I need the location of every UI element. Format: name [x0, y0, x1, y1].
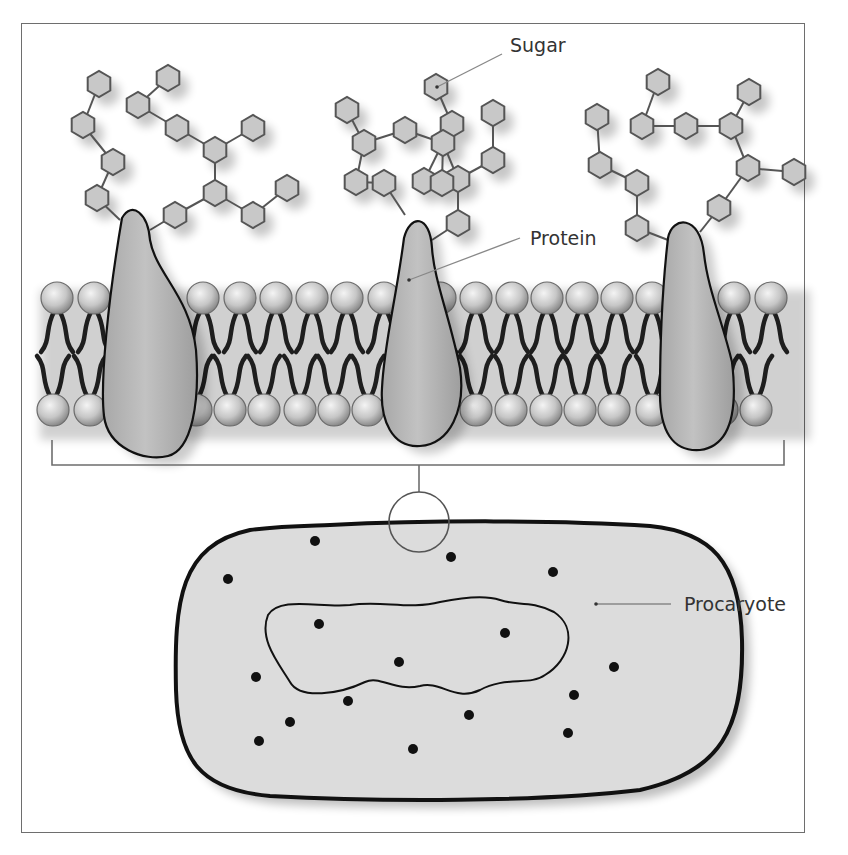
ribosome-dot: [569, 690, 579, 700]
phospholipid-head: [74, 394, 106, 426]
ribosome-dot: [446, 552, 456, 562]
phospholipid-head: [331, 282, 363, 314]
phospholipid-head: [296, 282, 328, 314]
sugar-hexagon: [675, 113, 698, 139]
sugar-hexagon: [72, 112, 95, 138]
sugar-hexagon: [631, 113, 654, 139]
phospholipid-head: [530, 394, 562, 426]
protein-middle: [382, 221, 461, 446]
sugar-hexagon: [738, 79, 761, 105]
phospholipid-head: [495, 394, 527, 426]
label-procaryote: Procaryote: [684, 593, 786, 615]
ribosome-dot: [500, 628, 510, 638]
sugar-hexagon: [86, 185, 109, 211]
sugar-hexagon: [353, 130, 376, 156]
label-sugar: Sugar: [510, 34, 566, 56]
protein-right: [660, 222, 734, 450]
ribosome-dot: [563, 728, 573, 738]
phospholipid-head: [37, 394, 69, 426]
cell-wall: [176, 521, 742, 800]
phospholipid-head: [601, 282, 633, 314]
sugar-hexagon: [586, 104, 609, 130]
sugar-hexagon: [102, 149, 125, 175]
ribosome-dot: [609, 662, 619, 672]
ribosome-dot: [314, 619, 324, 629]
label-protein: Protein: [530, 227, 597, 249]
procaryote-cell: [176, 521, 750, 808]
phospholipid-head: [248, 394, 280, 426]
sugar-hexagon: [783, 159, 806, 185]
ribosome-dot: [408, 744, 418, 754]
sugar-hexagon: [431, 170, 454, 196]
sugar-hexagon: [394, 117, 417, 143]
sugar-hexagon: [720, 113, 743, 139]
phospholipid-head: [41, 282, 73, 314]
sugar-hexagon: [447, 210, 470, 236]
sugar-hexagon: [164, 202, 187, 228]
phospholipid-head: [214, 394, 246, 426]
phospholipid-head: [755, 282, 787, 314]
protein-left: [103, 210, 197, 457]
ribosome-dot: [464, 710, 474, 720]
sugar-hexagon: [166, 115, 189, 141]
sugar-hexagon: [482, 147, 505, 173]
phospholipid-head: [566, 282, 598, 314]
ribosome-dot: [394, 657, 404, 667]
sugar-hexagon: [482, 100, 505, 126]
ribosome-dot: [254, 736, 264, 746]
cell-membrane-diagram: Sugar Protein Procaryote: [0, 0, 848, 855]
sugar-hexagon: [242, 115, 265, 141]
phospholipid-head: [78, 282, 110, 314]
phospholipid-head: [318, 394, 350, 426]
sugar-hexagon: [242, 202, 265, 228]
phospholipid-head: [260, 282, 292, 314]
ribosome-dot: [343, 696, 353, 706]
sugar-hexagon: [626, 170, 649, 196]
phospholipid-head: [740, 394, 772, 426]
ribosome-dot: [310, 536, 320, 546]
sugar-hexagon: [708, 195, 731, 221]
sugar-hexagon: [157, 65, 180, 91]
leader-sugar: [437, 54, 502, 87]
ribosome-dot: [548, 567, 558, 577]
phospholipid-head: [187, 282, 219, 314]
sugar-hexagon: [589, 152, 612, 178]
sugar-hexagon: [127, 92, 150, 118]
sugar-hexagon: [276, 175, 299, 201]
ribosome-dot: [285, 717, 295, 727]
sugar-hexagon: [373, 170, 396, 196]
phospholipid-head: [496, 282, 528, 314]
sugar-hexagon: [204, 137, 227, 163]
phospholipid-head: [598, 394, 630, 426]
phospholipid-head: [531, 282, 563, 314]
ribosome-dot: [251, 672, 261, 682]
phospholipid-head: [460, 282, 492, 314]
sugar-hexagon: [432, 130, 455, 156]
sugar-hexagon: [647, 69, 670, 95]
phospholipid-head: [224, 282, 256, 314]
phospholipid-head: [284, 394, 316, 426]
sugar-hexagon: [88, 71, 111, 97]
ribosome-dot: [223, 574, 233, 584]
sugar-hexagon: [737, 155, 760, 181]
sugar-hexagon: [204, 180, 227, 206]
phospholipid-head: [352, 394, 384, 426]
sugar-hexagon: [345, 169, 368, 195]
phospholipid-head: [564, 394, 596, 426]
sugar-hexagon: [626, 215, 649, 241]
sugar-hexagon: [336, 97, 359, 123]
